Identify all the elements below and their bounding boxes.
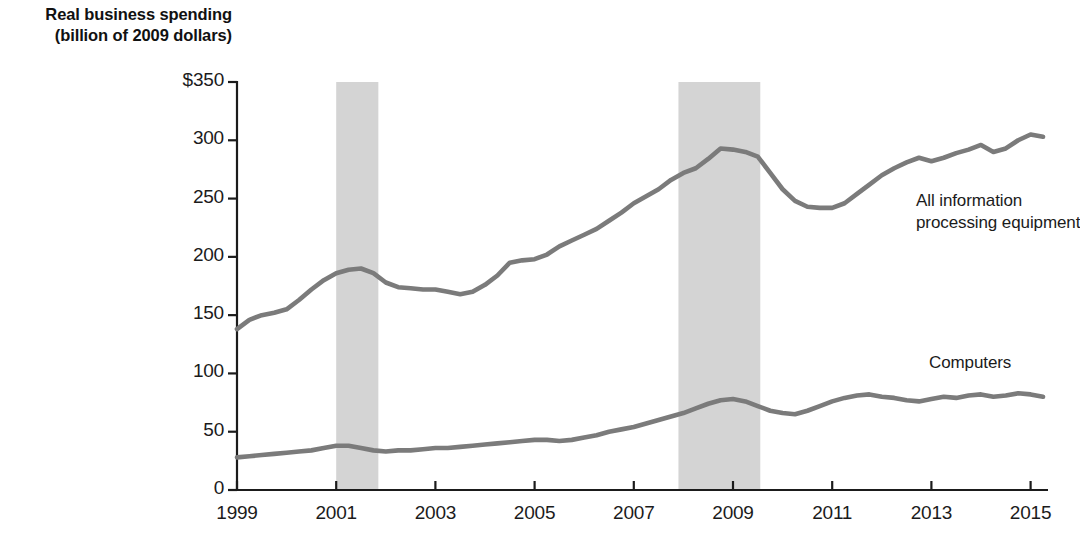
x-axis-tick-label: 2003: [390, 502, 480, 524]
x-axis-tick-label: 2011: [787, 502, 877, 524]
x-axis-tick-label: 2013: [886, 502, 976, 524]
series-label-all-information-processing-equipment: All information processing equipment: [916, 190, 1080, 234]
x-axis-tick-label: 2015: [986, 502, 1076, 524]
series-label-all-line1: All information: [916, 190, 1080, 212]
series-label-computers-text: Computers: [929, 352, 1011, 374]
y-axis-tick-label: $350: [120, 69, 224, 91]
x-axis-tick-label: 2005: [490, 502, 580, 524]
series-label-computers: Computers: [929, 352, 1011, 374]
y-axis-tick-label: 0: [120, 477, 224, 499]
x-axis-tick-label: 2009: [688, 502, 778, 524]
x-axis-tick-label: 2001: [291, 502, 381, 524]
x-axis-tick-label: 2007: [589, 502, 679, 524]
x-axis-tick-label: 1999: [192, 502, 282, 524]
y-axis-tick-label: 300: [120, 127, 224, 149]
y-axis-tick-label: 100: [120, 360, 224, 382]
y-axis-tick-label: 50: [120, 419, 224, 441]
recession-band: [336, 82, 378, 490]
recession-band: [678, 82, 760, 490]
y-axis-tick-label: 200: [120, 244, 224, 266]
y-axis-tick-label: 250: [120, 186, 224, 208]
series-label-all-line2: processing equipment: [916, 212, 1080, 234]
y-axis-tick-label: 150: [120, 302, 224, 324]
